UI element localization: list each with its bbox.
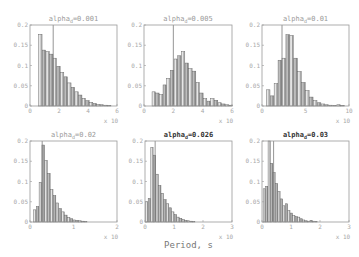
y-tick-label: 0.1 (17, 178, 28, 185)
histogram-bars (146, 147, 195, 222)
subplot-title: alphad=0.01 (283, 15, 328, 24)
y-tick-label: 0.05 (128, 82, 143, 89)
x-tick-label: 2 (172, 107, 176, 114)
histogram-bars (33, 145, 86, 222)
subplot-4: alphad=0.0200.050.10.150.2012x 10 (14, 131, 120, 240)
y-tick-label: 0.1 (17, 62, 28, 69)
x-tick-label: 2 (201, 223, 205, 230)
histogram-bars (266, 35, 344, 106)
x-tick-label: 0 (260, 107, 264, 114)
histogram-figure: alphad=0.00100.050.10.150.20246x 10alpha… (0, 0, 359, 257)
x-tick-label: 2 (57, 107, 61, 114)
subplot-3: alphad=0.0100.050.10.150.20510x 10 (246, 15, 353, 124)
y-tick-label: 0.2 (249, 21, 260, 28)
subplot-title: alphad=0.001 (49, 15, 98, 24)
x-exponent-label: x 10 (104, 233, 119, 240)
x-tick-label: 0 (142, 107, 146, 114)
y-tick-label: 0.2 (249, 137, 260, 144)
x-tick-label: 0 (28, 107, 32, 114)
histogram-bars (263, 141, 317, 222)
x-tick-label: 2 (318, 223, 322, 230)
subplot-title: alphad=0.02 (51, 131, 96, 140)
y-tick-label: 0.2 (17, 21, 28, 28)
y-tick-label: 0.15 (246, 157, 261, 164)
y-tick-label: 0.2 (131, 21, 142, 28)
y-tick-label: 0.05 (14, 198, 29, 205)
histogram-bars (39, 34, 111, 106)
x-tick-label: 3 (230, 223, 234, 230)
x-tick-label: 6 (115, 107, 119, 114)
y-tick-label: 0.05 (246, 198, 261, 205)
x-tick-label: 0 (143, 223, 147, 230)
x-tick-label: 1 (172, 223, 176, 230)
y-tick-label: 0.2 (132, 137, 143, 144)
y-tick-label: 0.1 (132, 178, 143, 185)
y-tick-label: 0.05 (246, 82, 261, 89)
x-exponent-label: x 10 (336, 117, 351, 124)
x-tick-label: 3 (347, 223, 351, 230)
subplot-5: alphad=0.02600.050.10.150.20123x 10Perio… (129, 131, 235, 250)
x-exponent-label: x 10 (219, 233, 234, 240)
y-tick-label: 0.05 (14, 82, 29, 89)
x-axis-label: Period, s (164, 240, 213, 250)
histogram-bars (152, 52, 232, 106)
y-tick-label: 0.15 (14, 41, 29, 48)
x-tick-label: 1 (289, 223, 293, 230)
y-tick-label: 0.15 (14, 157, 29, 164)
subplot-2: alphad=0.00500.050.10.150.20246x 10 (128, 15, 235, 124)
x-tick-label: 0 (260, 223, 264, 230)
subplot-6: alphad=0.0300.050.10.150.20123x 10 (246, 131, 352, 240)
y-tick-label: 0.1 (131, 62, 142, 69)
x-tick-label: 2 (115, 223, 119, 230)
y-tick-label: 0.1 (249, 178, 260, 185)
y-tick-label: 0.05 (129, 198, 144, 205)
x-tick-label: 0 (28, 223, 32, 230)
x-tick-label: 5 (304, 107, 308, 114)
y-tick-label: 0.15 (129, 157, 144, 164)
x-tick-label: 4 (86, 107, 90, 114)
subplot-title: alphad=0.005 (163, 15, 212, 24)
x-tick-label: 1 (72, 223, 76, 230)
y-tick-label: 0.15 (246, 41, 261, 48)
x-tick-label: 10 (345, 107, 353, 114)
subplot-title: alphad=0.026 (164, 131, 213, 140)
subplot-1: alphad=0.00100.050.10.150.20246x 10 (14, 15, 120, 124)
y-tick-label: 0.1 (249, 62, 260, 69)
y-tick-label: 0.15 (128, 41, 143, 48)
x-exponent-label: x 10 (336, 233, 351, 240)
x-exponent-label: x 10 (104, 117, 119, 124)
x-tick-label: 6 (230, 107, 234, 114)
y-tick-label: 0.2 (17, 137, 28, 144)
x-exponent-label: x 10 (219, 117, 234, 124)
subplot-title: alphad=0.03 (283, 131, 328, 140)
x-tick-label: 4 (201, 107, 205, 114)
